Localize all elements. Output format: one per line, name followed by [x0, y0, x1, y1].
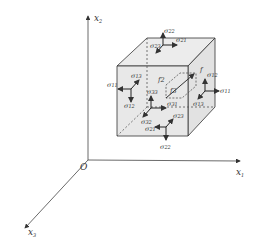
origin-label: O: [80, 162, 88, 172]
cube: [117, 38, 215, 136]
svg-text:σ33: σ33: [147, 88, 158, 96]
svg-text:σ11: σ11: [220, 87, 231, 95]
svg-text:σ31: σ31: [167, 100, 178, 108]
svg-text:σ22: σ22: [164, 27, 175, 35]
svg-text:σ13: σ13: [193, 100, 204, 108]
svg-text:σ21: σ21: [176, 36, 187, 44]
svg-text:σ23: σ23: [173, 112, 184, 120]
svg-text:f2: f2: [157, 76, 165, 84]
x3-label: x3: [28, 227, 36, 238]
x1-axis: [88, 160, 240, 161]
x2-label: x2: [94, 13, 102, 24]
svg-text:σ13: σ13: [131, 72, 142, 80]
svg-text:σ12: σ12: [207, 71, 218, 79]
svg-text:f3: f3: [169, 87, 177, 95]
svg-text:σ12: σ12: [124, 102, 135, 110]
svg-text:σ21: σ21: [145, 125, 156, 133]
x1-label: x1: [236, 167, 244, 178]
stress-cube-diagram: x2 x1 x3 O σ22 σ21 σ23 σ11: [0, 0, 261, 245]
x3-axis: [25, 160, 88, 228]
svg-text:σ22: σ22: [160, 143, 171, 151]
svg-text:σ11: σ11: [107, 81, 118, 89]
svg-text:σ23: σ23: [150, 42, 161, 50]
